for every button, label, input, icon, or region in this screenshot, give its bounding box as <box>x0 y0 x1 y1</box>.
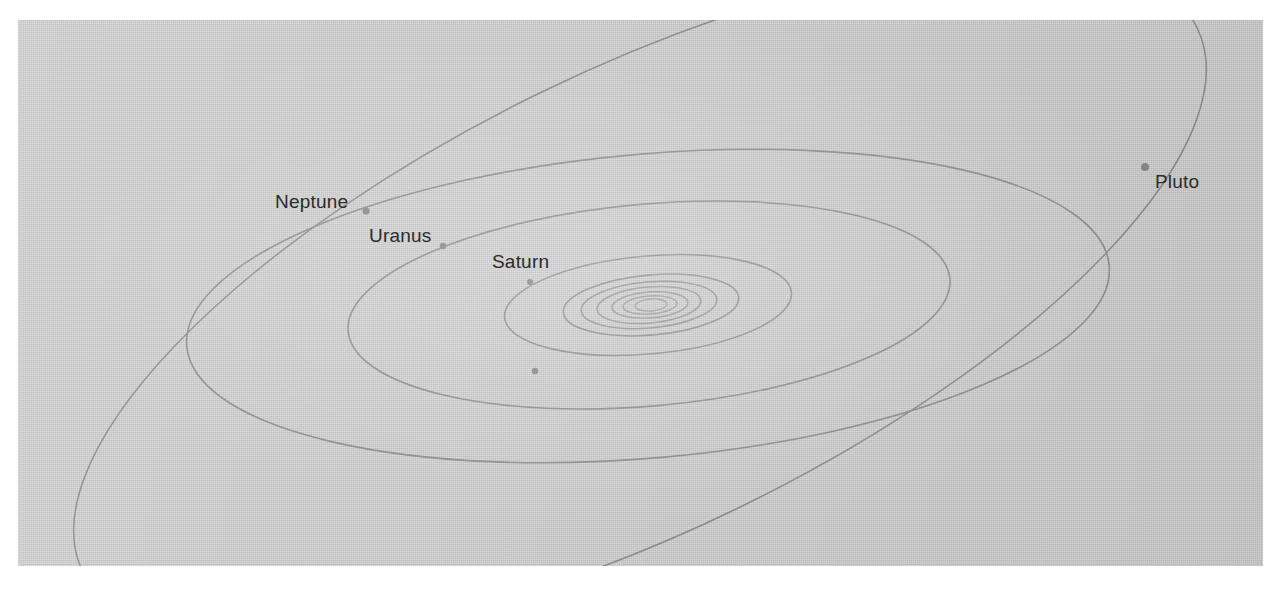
planet-label-pluto: Pluto <box>1155 172 1199 191</box>
orbit-uranus <box>339 178 958 432</box>
orbit-diagram-svg <box>18 20 1263 566</box>
planet-dot-unlabeled <box>532 368 538 374</box>
diagram-panel <box>18 20 1263 566</box>
planet-markers-group <box>362 163 1149 374</box>
orbits-group <box>18 20 1263 566</box>
orbit-venus <box>622 294 677 316</box>
planet-dot-neptune <box>362 207 369 214</box>
planet-label-neptune: Neptune <box>275 192 348 211</box>
planet-label-uranus: Uranus <box>369 226 431 245</box>
planet-label-saturn: Saturn <box>492 252 549 271</box>
orbit-neptune <box>174 114 1123 498</box>
orbit-mercury <box>635 298 668 312</box>
planet-dot-pluto <box>1141 163 1149 171</box>
planet-dot-uranus <box>440 243 446 249</box>
planet-dot-saturn <box>527 279 533 285</box>
figure-root: Neptune Uranus Saturn Pluto <box>0 0 1287 598</box>
orbit-jupiter <box>561 267 742 342</box>
